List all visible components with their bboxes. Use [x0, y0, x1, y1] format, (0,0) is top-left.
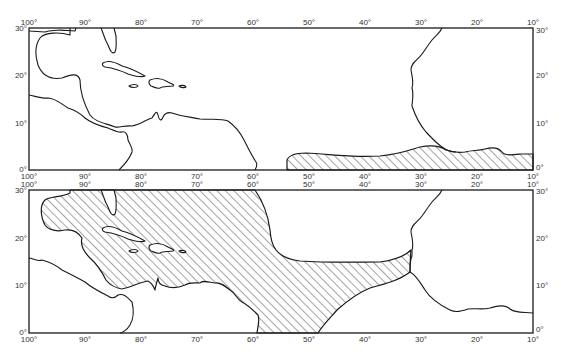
- top-island-hispaniola: [149, 79, 174, 89]
- bottom-island-jamaica: [129, 250, 138, 253]
- top-coast-florida: [101, 28, 116, 53]
- svg-text:70°: 70°: [191, 335, 203, 344]
- svg-text:10°: 10°: [15, 281, 27, 290]
- bottom-map-panel: 100° 90° 80° 70° 60° 50° 40° 30° 20° 10°…: [15, 180, 548, 344]
- svg-text:30°: 30°: [536, 26, 548, 35]
- top-map-panel: 100° 90° 80° 70° 60° 50° 40° 30° 20° 10°…: [15, 18, 548, 181]
- bottom-shaded-region: [41, 190, 411, 333]
- svg-text:20°: 20°: [471, 180, 483, 189]
- svg-text:50°: 50°: [303, 18, 315, 27]
- svg-text:90°: 90°: [79, 18, 91, 27]
- top-shaded-region: [287, 146, 533, 170]
- top-map-frame: [29, 28, 533, 170]
- top-coast-gulf: [29, 28, 257, 170]
- bottom-island-puerto-rico: [179, 250, 186, 252]
- svg-text:30°: 30°: [15, 24, 27, 33]
- svg-text:50°: 50°: [303, 335, 315, 344]
- svg-text:40°: 40°: [359, 18, 371, 27]
- bottom-panel-longitude-labels-top: 100° 90° 80° 70° 60° 50° 40° 30° 20° 10°: [21, 180, 539, 189]
- svg-text:20°: 20°: [15, 234, 27, 243]
- svg-text:20°: 20°: [15, 71, 27, 80]
- svg-text:80°: 80°: [135, 18, 147, 27]
- svg-text:20°: 20°: [471, 18, 483, 27]
- bottom-panel-longitude-labels-bottom: 100° 90° 80° 70° 60° 50° 40° 30° 20° 10°: [21, 335, 539, 344]
- svg-text:0°: 0°: [536, 325, 544, 334]
- svg-text:60°: 60°: [247, 18, 259, 27]
- bottom-coast-africa: [410, 190, 533, 313]
- svg-text:30°: 30°: [415, 335, 427, 344]
- svg-text:90°: 90°: [79, 180, 91, 189]
- svg-text:30°: 30°: [415, 18, 427, 27]
- top-panel-longitude-labels-top: 100° 90° 80° 70° 60° 50° 40° 30° 20° 10°: [21, 18, 539, 27]
- svg-text:80°: 80°: [135, 180, 147, 189]
- map-figure: 100° 90° 80° 70° 60° 50° 40° 30° 20° 10°…: [0, 0, 564, 355]
- svg-text:80°: 80°: [135, 335, 147, 344]
- top-island-cuba: [102, 62, 145, 77]
- svg-text:10°: 10°: [536, 119, 548, 128]
- top-island-puerto-rico: [179, 85, 186, 87]
- svg-text:40°: 40°: [359, 180, 371, 189]
- svg-text:20°: 20°: [536, 71, 548, 80]
- top-island-jamaica: [129, 85, 138, 88]
- svg-text:20°: 20°: [471, 335, 483, 344]
- svg-text:30°: 30°: [536, 187, 548, 196]
- svg-text:10°: 10°: [536, 281, 548, 290]
- svg-text:100°: 100°: [21, 335, 38, 344]
- svg-text:60°: 60°: [247, 180, 259, 189]
- top-panel-longitude-labels-bottom: 100° 90° 80° 70° 60° 50° 40° 30° 20° 10°: [21, 172, 539, 181]
- svg-text:70°: 70°: [191, 180, 203, 189]
- svg-text:50°: 50°: [303, 180, 315, 189]
- svg-text:10°: 10°: [527, 335, 539, 344]
- svg-text:90°: 90°: [79, 335, 91, 344]
- svg-text:40°: 40°: [359, 335, 371, 344]
- svg-text:20°: 20°: [536, 234, 548, 243]
- svg-text:60°: 60°: [247, 335, 259, 344]
- svg-text:30°: 30°: [415, 180, 427, 189]
- svg-text:10°: 10°: [15, 119, 27, 128]
- top-coast-americas: [29, 95, 132, 170]
- svg-text:70°: 70°: [191, 18, 203, 27]
- top-coast-africa: [411, 28, 456, 152]
- svg-text:0°: 0°: [536, 163, 544, 172]
- svg-text:30°: 30°: [15, 186, 27, 195]
